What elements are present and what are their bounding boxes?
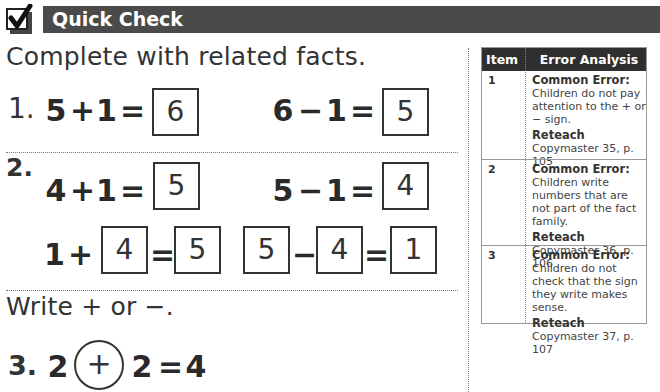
p1-eq2-eq: = [350,96,374,126]
divider-dotted [6,152,458,153]
p2-eq2-answer-box[interactable]: 4 [382,162,429,210]
header-error-analysis: Error Analysis [532,52,646,67]
row-item-number: 1 [488,74,496,87]
common-error-label: Common Error: [532,74,646,87]
p1-eq1-answer-box[interactable]: 6 [152,88,199,136]
p3-sign-circle[interactable]: + [74,340,124,390]
divider-dotted [6,290,458,291]
p2-eq1-op: + [70,176,94,206]
row-body: Common Error: Children do not pay attent… [532,74,646,168]
page-title: Quick Check [52,6,183,33]
common-error-text: Children do not pay attention to the + o… [532,87,646,126]
p2-eq1-eq: = [120,176,144,206]
p1-eq1-eq: = [120,96,144,126]
p2-eq4-a-box[interactable]: 5 [243,226,290,274]
row-item-number: 2 [488,163,496,176]
p2-eq1-a: 4 [44,176,68,206]
instruction-write-sign: Write + or −. [6,292,174,321]
p3-b: 2 [130,352,154,382]
row-body: Common Error: Children do not check that… [532,249,646,356]
error-analysis-table: Item Error Analysis 1 Common Error: Chil… [481,47,647,324]
p1-eq1-b: 1 [96,96,112,126]
p1-eq2-a: 6 [271,96,295,126]
p2-eq2-eq: = [350,176,374,206]
common-error-label: Common Error: [532,163,646,176]
common-error-text: Children write numbers that are not part… [532,176,646,228]
instruction-related-facts: Complete with related facts. [6,42,366,71]
p2-eq4-eq: = [364,240,388,270]
p2-eq3-a: 1 [44,240,60,270]
common-error-label: Common Error: [532,249,646,262]
row-item-number: 3 [488,249,496,262]
p1-eq2-op: − [298,96,322,126]
p2-eq3-op: + [68,240,92,270]
table-row: 1 Common Error: Children do not pay atte… [482,71,646,157]
p2-eq4-op: − [292,240,316,270]
checkmark-box-icon [6,6,34,34]
problem-number-3: 3. [8,350,37,381]
p2-eq4-b-box[interactable]: 4 [316,226,363,274]
p3-eq: = [158,352,182,382]
p2-eq2-b: 1 [326,176,342,206]
p2-eq3-eq: = [150,240,174,270]
reteach-label: Reteach [532,129,646,142]
checkmark-icon [6,4,36,34]
p1-eq2-answer-box[interactable]: 5 [382,88,429,136]
column-separator [468,48,469,392]
reteach-label: Reteach [532,231,646,244]
error-analysis-header: Item Error Analysis [482,48,646,71]
p2-eq2-op: − [298,176,322,206]
p1-eq1-op: + [70,96,94,126]
p1-eq2-b: 1 [326,96,342,126]
p2-eq4-answer-box[interactable]: 1 [390,226,437,274]
p2-eq2-a: 5 [271,176,295,206]
p2-eq1-b: 1 [96,176,112,206]
p1-eq1-a: 5 [44,96,68,126]
common-error-text: Children do not check that the sign they… [532,262,646,314]
p2-eq3-answer-box[interactable]: 5 [174,226,221,274]
reteach-label: Reteach [532,317,646,330]
p3-result: 4 [184,352,208,382]
problem-number-2: 2. [6,153,33,182]
table-row: 2 Common Error: Children write numbers t… [482,159,646,245]
p2-eq1-answer-box[interactable]: 5 [153,162,200,210]
problem-number-1: 1. [8,92,35,125]
reteach-reference: Copymaster 37, p. 107 [532,330,646,356]
p3-a: 2 [46,352,70,382]
p2-eq3-b-box[interactable]: 4 [101,226,148,274]
table-row: 3 Common Error: Children do not check th… [482,245,646,323]
header-item: Item [486,52,518,67]
